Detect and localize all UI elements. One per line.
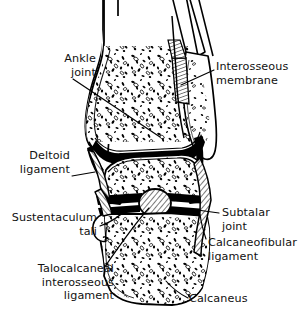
label-deltoid-ligament: Deltoid ligament [2, 149, 70, 176]
label-subtalar-joint: Subtalar joint [222, 206, 304, 233]
label-interosseous-membrane: Interosseous membrane [216, 60, 306, 87]
label-ankle-joint: Ankle joint [12, 52, 96, 79]
label-sustentaculum-tali: Sustentaculum tali [2, 211, 97, 238]
tibia-and-fibula-group [85, 0, 216, 159]
label-talocalcaneal-interosseous-ligament: Talocalcaneal interosseous ligament [2, 262, 114, 303]
anatomical-figure: Ankle joint Interosseous membrane Deltoi… [0, 0, 307, 318]
label-calcaneofibular-ligament: Calcaneofibular ligament [208, 236, 307, 263]
calcaneus-trabecular-fill [100, 216, 209, 304]
label-calcaneus: Calcaneus [189, 292, 269, 306]
